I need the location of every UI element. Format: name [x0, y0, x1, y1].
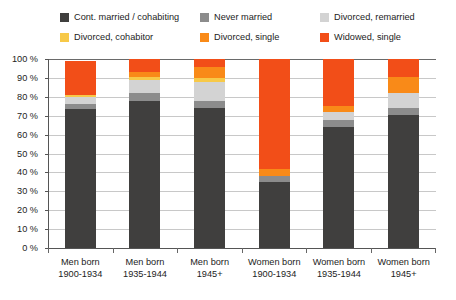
- legend-swatch-icon: [320, 33, 329, 42]
- legend-item[interactable]: Cont. married / cohabiting: [60, 13, 200, 22]
- y-axis-tick-label: 90 %: [17, 73, 38, 83]
- chart-legend: Cont. married / cohabitingNever marriedD…: [60, 8, 452, 48]
- bar-segment[interactable]: [388, 108, 419, 115]
- y-axis-tick-label: 80 %: [17, 92, 38, 102]
- bar-segment[interactable]: [388, 77, 419, 93]
- x-axis-tick-mark: [306, 248, 307, 253]
- y-axis-tick-label: 100 %: [12, 54, 38, 64]
- x-axis-category-line: Women born: [242, 256, 306, 268]
- legend-item[interactable]: Divorced, remarried: [320, 13, 452, 22]
- x-axis-category-label: Women born1935-1944: [307, 256, 371, 280]
- x-axis-tick-mark: [371, 248, 372, 253]
- bar-column[interactable]: [48, 59, 112, 248]
- x-axis-category-line: 1945+: [178, 268, 242, 280]
- bar-segment[interactable]: [388, 115, 419, 248]
- y-axis-tick-label: 50 %: [17, 149, 38, 159]
- bar-segment[interactable]: [129, 93, 160, 101]
- x-axis-category-line: Men born: [48, 256, 112, 268]
- x-axis-category-line: 1945+: [372, 268, 436, 280]
- x-axis-category-label: Men born1945+: [178, 256, 242, 280]
- bar-segment[interactable]: [129, 80, 160, 93]
- legend-item[interactable]: Never married: [200, 13, 320, 22]
- bar-segment[interactable]: [388, 93, 419, 108]
- bar-segment[interactable]: [388, 59, 419, 77]
- y-axis-tick-label: 40 %: [17, 167, 38, 177]
- legend-item[interactable]: Divorced, cohabitor: [60, 33, 200, 42]
- x-axis-category-line: 1900-1934: [48, 268, 112, 280]
- x-axis-ticks: [48, 248, 436, 253]
- x-axis-category-line: 1935-1944: [113, 268, 177, 280]
- x-axis-tick-mark: [242, 248, 243, 253]
- stacked-bar[interactable]: [323, 59, 354, 248]
- bar-segment[interactable]: [65, 109, 96, 248]
- x-axis-labels: Men born1900-1934Men born1935-1944Men bo…: [48, 256, 436, 280]
- bar-segment[interactable]: [323, 120, 354, 128]
- legend-item[interactable]: Divorced, single: [200, 33, 320, 42]
- bar-column[interactable]: [372, 59, 436, 248]
- y-axis-tick-label: 0 %: [22, 243, 38, 253]
- bar-segment[interactable]: [194, 108, 225, 248]
- x-axis-category-label: Men born1935-1944: [113, 256, 177, 280]
- bar-segment[interactable]: [323, 112, 354, 120]
- bar-segment[interactable]: [129, 101, 160, 248]
- legend-item-label: Widowed, single: [334, 33, 401, 42]
- x-axis-category-line: Women born: [307, 256, 371, 268]
- stacked-bar[interactable]: [388, 59, 419, 248]
- x-axis-category-line: 1935-1944: [307, 268, 371, 280]
- x-axis-tick-mark: [48, 248, 49, 253]
- bar-segment[interactable]: [323, 59, 354, 106]
- legend-item-label: Cont. married / cohabiting: [74, 13, 179, 22]
- x-axis-category-label: Women born1900-1934: [242, 256, 306, 280]
- bar-column[interactable]: [113, 59, 177, 248]
- bar-segment[interactable]: [194, 101, 225, 109]
- bar-segment[interactable]: [259, 169, 290, 177]
- legend-swatch-icon: [200, 33, 209, 42]
- x-axis-tick-mark: [113, 248, 114, 253]
- bar-segment[interactable]: [259, 59, 290, 169]
- x-axis-category-label: Women born1945+: [372, 256, 436, 280]
- legend-item[interactable]: Widowed, single: [320, 33, 452, 42]
- bar-column[interactable]: [178, 59, 242, 248]
- y-axis-tick-label: 70 %: [17, 111, 38, 121]
- stacked-bar[interactable]: [65, 59, 96, 248]
- bar-segment[interactable]: [65, 61, 96, 95]
- x-axis-category-line: 1900-1934: [242, 268, 306, 280]
- bar-segment[interactable]: [259, 182, 290, 248]
- plot-area: [48, 59, 436, 248]
- legend-swatch-icon: [200, 13, 209, 22]
- bar-segment[interactable]: [129, 59, 160, 72]
- bar-segment[interactable]: [194, 59, 225, 67]
- legend-swatch-icon: [320, 13, 329, 22]
- legend-swatch-icon: [60, 33, 69, 42]
- x-axis-category-line: Women born: [372, 256, 436, 268]
- y-axis-tick-label: 60 %: [17, 130, 38, 140]
- legend-item-label: Divorced, cohabitor: [74, 33, 153, 42]
- stacked-bar[interactable]: [259, 59, 290, 248]
- x-axis-tick-mark: [177, 248, 178, 253]
- x-axis-category-line: Men born: [113, 256, 177, 268]
- bar-column[interactable]: [307, 59, 371, 248]
- x-axis-tick-mark: [435, 248, 436, 253]
- x-axis-category-line: Men born: [178, 256, 242, 268]
- bar-segment[interactable]: [323, 127, 354, 248]
- y-axis-tick-label: 20 %: [17, 205, 38, 215]
- y-axis-labels: 0 %10 %20 %30 %40 %50 %60 %70 %80 %90 %1…: [0, 59, 44, 248]
- bar-column[interactable]: [242, 59, 306, 248]
- y-axis-tick-label: 30 %: [17, 186, 38, 196]
- stacked-bar[interactable]: [194, 59, 225, 248]
- legend-item-label: Divorced, single: [214, 33, 279, 42]
- bar-segment[interactable]: [194, 67, 225, 78]
- stacked-bar[interactable]: [129, 59, 160, 248]
- y-axis-tick-label: 10 %: [17, 224, 38, 234]
- legend-swatch-icon: [60, 13, 69, 22]
- legend-item-label: Divorced, remarried: [334, 13, 415, 22]
- legend-item-label: Never married: [214, 13, 272, 22]
- bar-segment[interactable]: [194, 82, 225, 101]
- x-axis-category-label: Men born1900-1934: [48, 256, 112, 280]
- bar-group: [48, 59, 436, 248]
- bar-segment[interactable]: [65, 97, 96, 105]
